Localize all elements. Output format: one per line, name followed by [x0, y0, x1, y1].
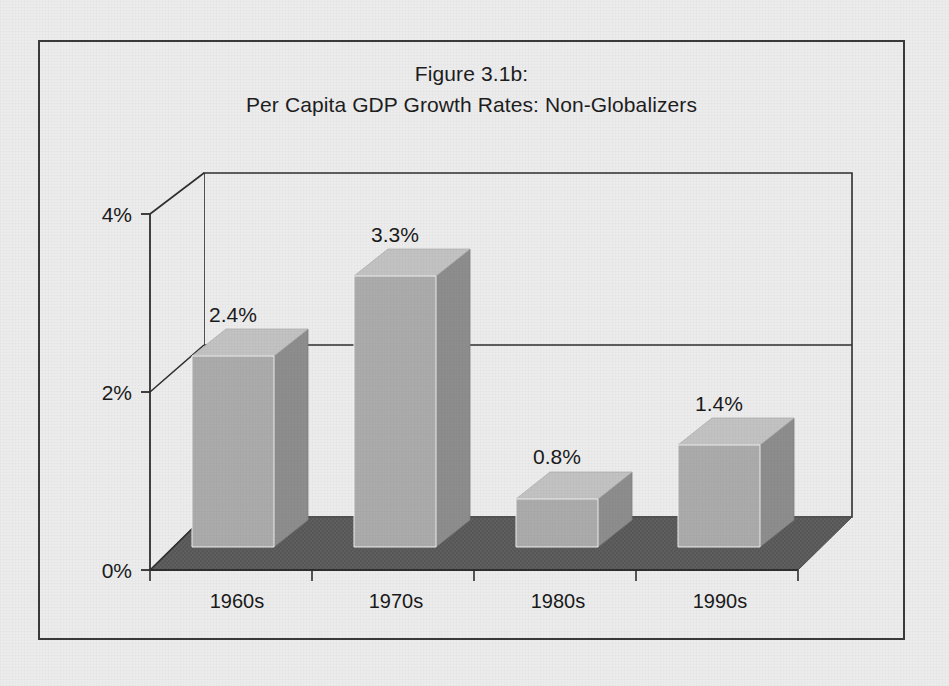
page-canvas: Figure 3.1b: Per Capita GDP Growth Rates… — [0, 0, 949, 686]
bar-value-label-1970s: 3.3% — [371, 224, 419, 245]
bar-value-label-1990s: 1.4% — [695, 393, 743, 414]
x-axis-label-1990s: 1990s — [693, 591, 748, 612]
bar-1970s-front — [354, 276, 436, 547]
bar-1960s-side — [274, 329, 308, 547]
bar-1980s-front — [516, 499, 598, 547]
chart-svg — [40, 42, 907, 642]
bar-1970s[interactable] — [354, 249, 470, 547]
y-axis-label-2pct: 2% — [60, 382, 132, 403]
bar-value-label-1980s: 0.8% — [533, 446, 581, 467]
figure-frame: Figure 3.1b: Per Capita GDP Growth Rates… — [38, 40, 905, 640]
bar-value-label-1960s: 2.4% — [209, 304, 257, 325]
y-axis-label-4pct: 4% — [60, 204, 132, 225]
bar-1970s-side — [436, 249, 470, 547]
bar-1960s-front — [192, 356, 274, 547]
x-axis-label-1960s: 1960s — [210, 591, 265, 612]
x-axis-label-1980s: 1980s — [531, 591, 586, 612]
bar-1960s[interactable] — [192, 329, 308, 547]
y-axis-label-0pct: 0% — [60, 560, 132, 581]
bar-1990s[interactable] — [678, 418, 794, 547]
plot-area — [40, 42, 907, 642]
bar-1990s-front — [678, 445, 760, 547]
x-axis-label-1970s: 1970s — [369, 591, 424, 612]
